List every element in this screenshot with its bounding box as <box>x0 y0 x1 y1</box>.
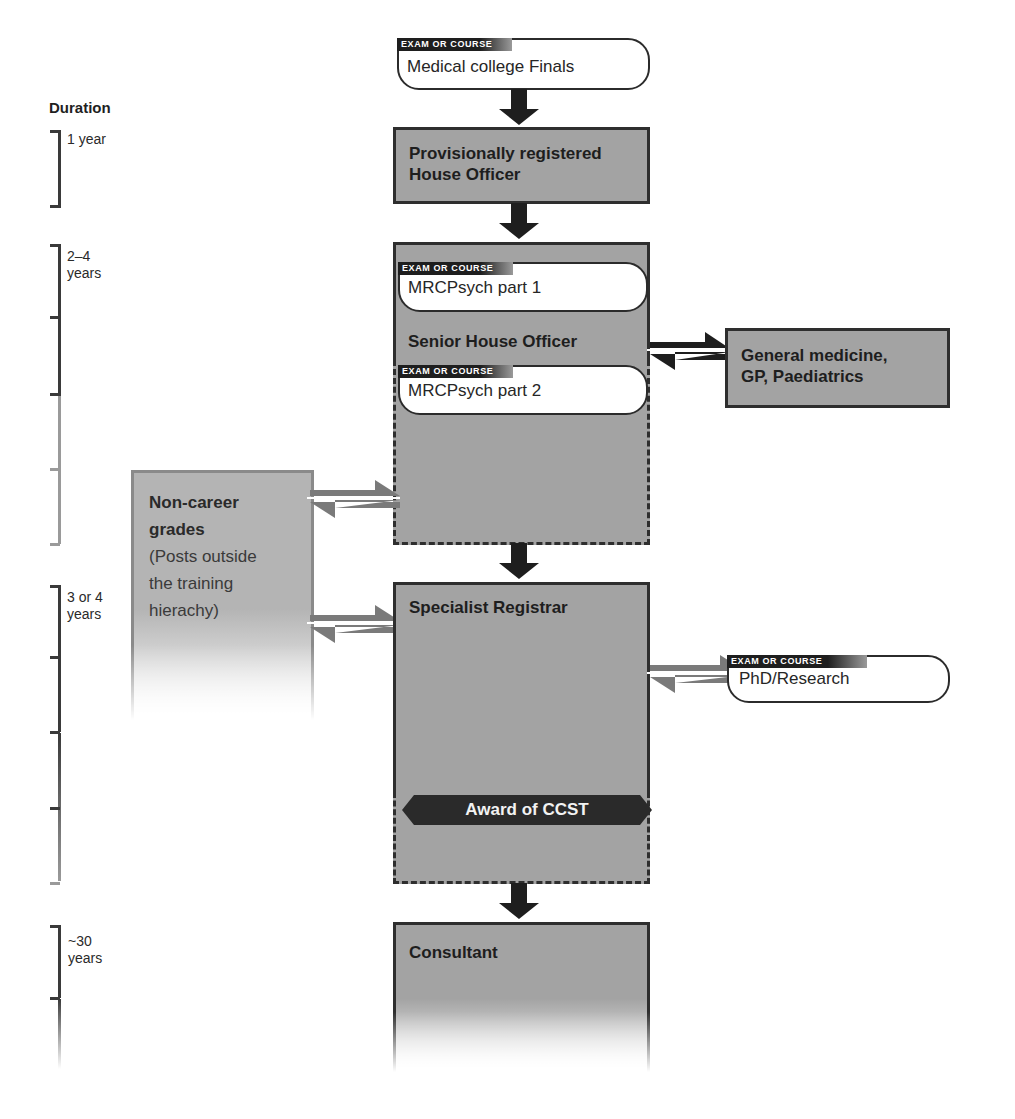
two-way-arrow-icon <box>645 330 735 372</box>
exam-text: MRCPsych part 1 <box>408 278 541 298</box>
two-way-arrow-icon <box>305 480 400 520</box>
box-title: General medicine, GP, Paediatrics <box>741 345 887 387</box>
duration-label-30-years: ~30 years <box>68 933 102 967</box>
exam-text: PhD/Research <box>739 669 850 689</box>
duration-line <box>58 316 61 396</box>
exam-medical-college-finals: EXAM OR COURSE Medical college Finals <box>397 38 650 90</box>
exam-mrcpsych-part-1: EXAM OR COURSE MRCPsych part 1 <box>398 262 648 312</box>
box-title: Specialist Registrar <box>409 597 568 618</box>
duration-bracket-2-4-years <box>50 244 61 317</box>
duration-line <box>58 658 61 732</box>
down-arrow-icon <box>499 883 539 919</box>
non-career-text: Non-career grades (Posts outside the tra… <box>149 489 257 624</box>
down-arrow-icon <box>499 543 539 579</box>
duration-tick <box>50 543 60 546</box>
duration-bracket-30-years <box>50 925 61 998</box>
exam-text: MRCPsych part 2 <box>408 381 541 401</box>
duration-bracket-3-4-years <box>50 585 61 658</box>
exam-tag: EXAM OR COURSE <box>398 262 513 275</box>
consultant-title: Consultant <box>409 942 498 963</box>
two-way-arrow-icon <box>305 605 400 645</box>
duration-heading: Duration <box>49 99 111 116</box>
box-general-medicine: General medicine, GP, Paediatrics <box>725 328 950 408</box>
exam-tag: EXAM OR COURSE <box>397 38 512 51</box>
exam-phd-research: EXAM OR COURSE PhD/Research <box>727 655 950 703</box>
duration-label-2-4-years: 2–4 years <box>67 248 101 282</box>
exam-text: Medical college Finals <box>407 57 574 77</box>
exam-mrcpsych-part-2: EXAM OR COURSE MRCPsych part 2 <box>398 365 648 415</box>
exam-tag: EXAM OR COURSE <box>398 365 513 378</box>
duration-line-faded <box>58 999 61 1069</box>
box-specialist-registrar: Specialist Registrar <box>393 582 650 794</box>
exam-tag: EXAM OR COURSE <box>727 655 867 668</box>
duration-tick <box>50 882 60 885</box>
box-title: Provisionally registered House Officer <box>409 143 602 185</box>
duration-label-3-4-years: 3 or 4 years <box>67 589 103 623</box>
down-arrow-icon <box>499 203 539 239</box>
box-house-officer: Provisionally registered House Officer <box>393 127 650 204</box>
duration-bracket-1-year <box>50 130 61 208</box>
duration-tick <box>50 807 60 810</box>
award-ccst-banner: Award of CCST <box>402 795 652 825</box>
down-arrow-icon <box>499 89 539 125</box>
duration-label-1-year: 1 year <box>67 131 106 148</box>
sho-title: Senior House Officer <box>408 331 577 352</box>
duration-tick <box>50 468 60 471</box>
